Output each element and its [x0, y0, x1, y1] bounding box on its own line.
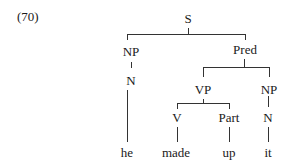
node-n-object: N [263, 111, 272, 124]
word-made: made [162, 146, 190, 159]
node-part: Part [219, 111, 240, 124]
node-np-subject: NP [123, 45, 140, 58]
word-up: up [223, 146, 236, 159]
node-pred: Pred [233, 43, 257, 56]
tree-branches [0, 0, 293, 166]
word-it: it [264, 146, 271, 159]
node-v: V [172, 111, 181, 124]
node-vp: VP [195, 83, 212, 96]
node-n-subject: N [126, 74, 135, 87]
word-he: he [121, 146, 133, 159]
node-s: S [184, 12, 191, 25]
node-np-object: NP [261, 83, 278, 96]
